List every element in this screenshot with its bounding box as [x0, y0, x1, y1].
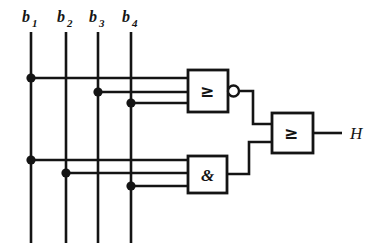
gate-nor-symbol: ≥: [200, 81, 214, 101]
wire-nor-to-or-path: [239, 91, 272, 124]
input-label-b3: b 3: [89, 8, 105, 29]
input-label-b2-text: b: [57, 8, 65, 25]
input-label-b1: b 1: [22, 8, 38, 29]
input-label-b3-text: b: [89, 8, 97, 25]
wire-and-to-or: [227, 142, 272, 174]
input-label-b2: b 2: [57, 8, 73, 29]
gate-or-out[interactable]: ≥: [272, 113, 313, 153]
junction-dot-b3-nor: [93, 87, 102, 96]
input-labels: b 1 b 2 b 3 b 4: [22, 8, 138, 29]
gate-and-symbol: &: [201, 166, 215, 185]
junction-dot-b4-and: [126, 181, 135, 190]
logic-circuit-diagram: ≥ & ≥ b 1 b: [0, 0, 378, 249]
input-bus-lines: [31, 32, 131, 243]
output-label-h: H: [349, 124, 364, 143]
input-label-b1-text: b: [22, 8, 30, 25]
and-gate-input-wires: [31, 160, 188, 186]
input-label-b3-subscript: 3: [98, 17, 105, 29]
input-label-b2-subscript: 2: [66, 17, 73, 29]
gate-and[interactable]: &: [188, 156, 227, 193]
junction-dot-b1-nor: [26, 73, 35, 82]
junction-dot-b2-and: [61, 168, 70, 177]
junction-dot-b4-nor: [126, 98, 135, 107]
nor-gate-input-wires: [31, 78, 188, 103]
gate-or-out-symbol: ≥: [284, 123, 298, 143]
input-label-b4: b 4: [122, 8, 138, 29]
wire-nor-to-or: [239, 91, 272, 124]
junction-dot-b1-and: [26, 155, 35, 164]
gate-nor-inversion-bubble-icon: [228, 86, 239, 97]
input-label-b4-text: b: [122, 8, 130, 25]
wire-and-to-or-path: [227, 142, 272, 174]
input-label-b1-subscript: 1: [32, 17, 38, 29]
input-label-b4-subscript: 4: [131, 17, 138, 29]
gate-nor[interactable]: ≥: [188, 70, 239, 112]
circuit-canvas: ≥ & ≥ b 1 b: [0, 0, 378, 249]
